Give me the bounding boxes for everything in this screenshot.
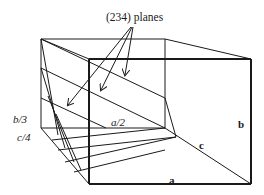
axis-c-edge <box>165 128 251 184</box>
depth-edges <box>41 39 251 184</box>
planes-title: (234) planes <box>106 12 163 24</box>
label-c-quarter: c/4 <box>17 132 30 143</box>
axis-label-b: b <box>238 119 244 130</box>
label-b-third: b/3 <box>13 114 27 125</box>
axis-label-a: a <box>169 175 175 186</box>
unit-cell-diagram <box>0 0 264 195</box>
axis-label-c: c <box>199 140 204 151</box>
back-face <box>41 39 165 128</box>
label-a-half: a/2 <box>111 117 125 128</box>
